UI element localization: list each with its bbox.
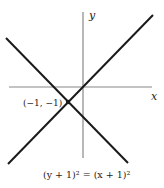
line-y-equals-x <box>8 15 153 164</box>
graph: y x (−1, −1) (y + 1)² = (x + 1)² <box>0 0 164 188</box>
y-axis-label: y <box>88 9 96 22</box>
intersection-point <box>66 100 70 104</box>
equation-caption: (y + 1)² = (x + 1)² <box>43 169 130 180</box>
x-axis-label: x <box>151 90 158 103</box>
point-label: (−1, −1) <box>23 98 62 108</box>
